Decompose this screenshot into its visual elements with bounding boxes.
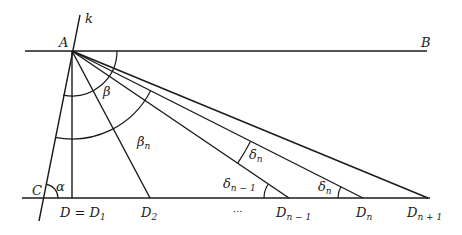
label-point-C: C	[32, 184, 42, 197]
label-angle-delta-n-upper-sub: n	[257, 154, 263, 164]
label-angle-beta: β	[103, 85, 111, 98]
arc-delta-n-lower	[338, 186, 341, 198]
label-angle-beta-n: βn	[137, 135, 150, 151]
label-point-D1: D = D1	[60, 206, 106, 222]
label-point-A: A	[59, 36, 68, 49]
label-angle-beta-n-main: β	[137, 134, 145, 149]
label-angle-delta-n-minus-1: δn − 1	[223, 177, 256, 193]
diagram-lines	[0, 0, 462, 235]
label-point-D2-sub: 2	[151, 212, 157, 222]
label-point-D2-main: D	[141, 205, 151, 220]
label-angle-delta-n-upper-main: δ	[249, 147, 257, 162]
line-A-Dn-minus-1	[72, 51, 289, 198]
label-angle-alpha: α	[56, 180, 65, 193]
label-line-k: k	[85, 12, 93, 25]
label-point-Dn: Dn	[356, 206, 372, 222]
label-angle-delta-n-upper: δn	[249, 148, 263, 164]
label-point-Dn-main: D	[356, 205, 366, 220]
label-ellipsis: ...	[233, 204, 243, 214]
label-angle-delta-n-lower: δn	[318, 180, 332, 196]
label-point-Dn-minus-1-sub: n − 1	[286, 212, 311, 222]
label-point-D1-sub: 1	[100, 212, 106, 222]
label-angle-delta-n-minus-1-main: δ	[223, 176, 231, 191]
label-angle-beta-n-sub: n	[145, 141, 151, 151]
label-point-D2: D2	[141, 206, 157, 222]
label-angle-delta-n-minus-1-sub: n − 1	[231, 183, 256, 193]
label-point-Dn-minus-1-main: D	[276, 205, 286, 220]
arc-delta-n-minus-1	[264, 184, 268, 198]
label-point-D1-main: D = D	[60, 205, 100, 220]
label-point-B: B	[421, 36, 431, 49]
line-A-Dn-plus-1	[72, 51, 428, 198]
label-angle-delta-n-lower-main: δ	[318, 179, 326, 194]
label-angle-delta-n-lower-sub: n	[326, 186, 332, 196]
geometry-diagram: A B k C α D = D1 D2 ... Dn − 1 Dn Dn + 1…	[0, 0, 462, 235]
line-A-Dn	[72, 51, 363, 198]
label-point-Dn-plus-1: Dn + 1	[407, 206, 442, 222]
label-point-Dn-plus-1-main: D	[407, 205, 417, 220]
label-point-Dn-minus-1: Dn − 1	[276, 206, 311, 222]
label-point-Dn-sub: n	[366, 212, 372, 222]
label-point-Dn-plus-1-sub: n + 1	[417, 212, 442, 222]
